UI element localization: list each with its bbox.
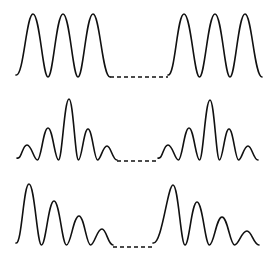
row-uniform-peaks <box>16 14 262 77</box>
peak-group-right <box>158 100 258 160</box>
peak-group-right <box>168 14 262 77</box>
peak-group-right <box>153 185 259 245</box>
peak-group-left <box>16 14 110 77</box>
row-symmetric-peaks <box>17 99 258 161</box>
peak-group-left <box>16 184 113 245</box>
diagram-canvas <box>0 0 275 256</box>
waveform-diagram <box>0 0 275 256</box>
row-decaying-peaks <box>16 184 259 247</box>
peak-group-left <box>17 99 117 160</box>
